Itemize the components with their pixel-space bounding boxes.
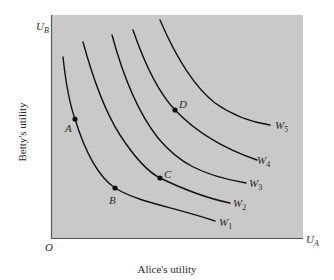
- point-d-label: D: [178, 98, 187, 110]
- y-axis-title: Betty's utility: [16, 102, 28, 162]
- plot-panel: [51, 15, 303, 239]
- point-a-dot: [72, 116, 77, 121]
- point-c-dot: [157, 175, 162, 180]
- point-d-dot: [172, 107, 177, 112]
- point-b-dot: [112, 185, 117, 190]
- point-b-label: B: [109, 194, 116, 206]
- point-c-label: C: [164, 168, 172, 180]
- welfare-diagram: A B C D W1 W2 W3 W4 W5 UB UA O Alice's u…: [0, 0, 334, 280]
- point-a-label: A: [64, 122, 72, 134]
- x-axis-symbol: UA: [306, 233, 319, 248]
- x-axis-title: Alice's utility: [137, 263, 197, 275]
- y-axis-symbol: UB: [36, 20, 49, 35]
- origin-label: O: [45, 241, 53, 253]
